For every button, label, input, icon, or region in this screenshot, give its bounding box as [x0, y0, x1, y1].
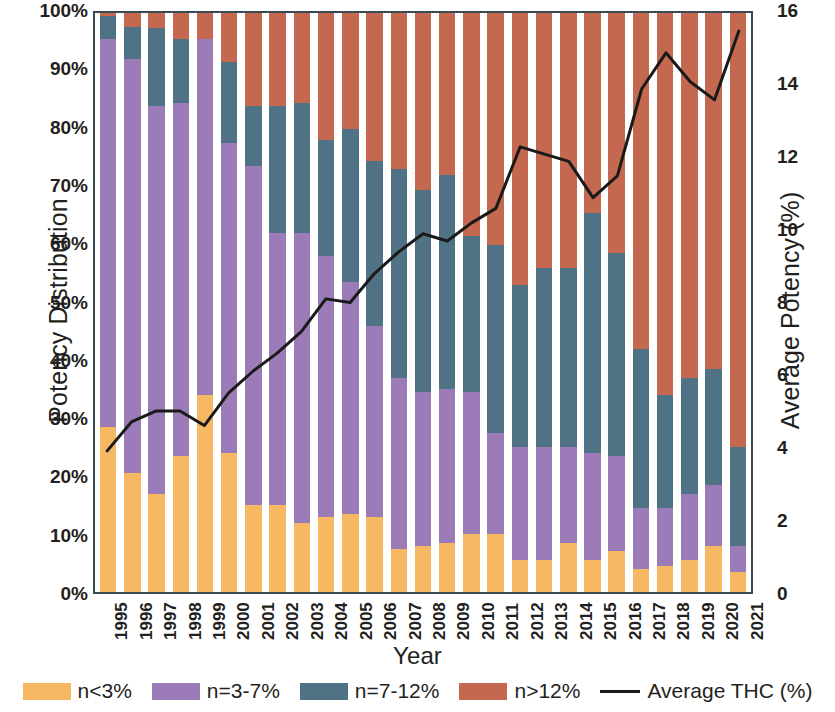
stacked-bar[interactable] [512, 13, 528, 592]
bar-column[interactable] [653, 13, 677, 592]
x-tick-label: 2014 [577, 602, 597, 640]
bar-column[interactable] [387, 13, 411, 592]
bar-segment [487, 245, 503, 433]
stacked-bar[interactable] [608, 13, 624, 592]
bar-segment [681, 494, 697, 561]
stacked-bar[interactable] [366, 13, 382, 592]
legend-label: n=3-7% [207, 679, 280, 703]
bar-column[interactable] [314, 13, 338, 592]
bar-segment [584, 453, 600, 560]
stacked-bar[interactable] [633, 13, 649, 592]
stacked-bar[interactable] [100, 13, 116, 592]
stacked-bar[interactable] [391, 13, 407, 592]
bar-segment [487, 13, 503, 245]
stacked-bar[interactable] [221, 13, 237, 592]
bar-segment [512, 447, 528, 560]
bar-column[interactable] [120, 13, 144, 592]
stacked-bar[interactable] [342, 13, 358, 592]
bar-column[interactable] [144, 13, 168, 592]
bar-column[interactable] [532, 13, 556, 592]
bar-column[interactable] [241, 13, 265, 592]
stacked-bar[interactable] [294, 13, 310, 592]
bar-segment [512, 13, 528, 285]
bar-segment [245, 505, 261, 592]
bar-segment [318, 256, 334, 517]
stacked-bar[interactable] [269, 13, 285, 592]
bar-column[interactable] [411, 13, 435, 592]
bar-column[interactable] [701, 13, 725, 592]
bar-segment [657, 395, 673, 508]
y-tick-label-left: 50% [50, 293, 88, 312]
y-tick-label-right: 16 [777, 1, 798, 20]
stacked-bar[interactable] [148, 13, 164, 592]
bar-column[interactable] [362, 13, 386, 592]
legend-item[interactable]: n=3-7% [152, 679, 280, 703]
legend-item[interactable]: Average THC (%) [600, 679, 812, 703]
stacked-bar[interactable] [705, 13, 721, 592]
bar-segment [269, 13, 285, 106]
bar-column[interactable] [677, 13, 701, 592]
stacked-bar[interactable] [463, 13, 479, 592]
bar-column[interactable] [605, 13, 629, 592]
y-tick-label-left: 10% [50, 526, 88, 545]
bar-column[interactable] [508, 13, 532, 592]
bar-column[interactable] [266, 13, 290, 592]
bar-segment [366, 13, 382, 161]
y-tick-label-right: 0 [777, 584, 788, 603]
bar-segment [608, 13, 624, 253]
bar-segment [536, 447, 552, 560]
bar-segment [730, 572, 746, 592]
bar-column[interactable] [290, 13, 314, 592]
stacked-bar[interactable] [439, 13, 455, 592]
stacked-bar[interactable] [173, 13, 189, 592]
bar-column[interactable] [629, 13, 653, 592]
stacked-bar[interactable] [487, 13, 503, 592]
stacked-bar[interactable] [197, 13, 213, 592]
legend-item[interactable]: n>12% [459, 679, 580, 703]
bar-segment [681, 560, 697, 592]
bar-column[interactable] [217, 13, 241, 592]
bar-segment [608, 456, 624, 552]
bar-column[interactable] [435, 13, 459, 592]
bar-column[interactable] [459, 13, 483, 592]
stacked-bar[interactable] [560, 13, 576, 592]
bar-column[interactable] [580, 13, 604, 592]
stacked-bar[interactable] [415, 13, 431, 592]
stacked-bar[interactable] [584, 13, 600, 592]
stacked-bar[interactable] [536, 13, 552, 592]
chart-figure: Potency Distribution Average Potency (%)… [0, 0, 835, 712]
stacked-bar[interactable] [657, 13, 673, 592]
legend-item[interactable]: n<3% [23, 679, 132, 703]
bar-segment [342, 129, 358, 282]
legend-swatch-salmon-icon [459, 683, 507, 700]
x-tick-label: 2006 [381, 602, 401, 640]
bar-segment [148, 494, 164, 592]
bar-segment [148, 28, 164, 106]
bar-column[interactable] [338, 13, 362, 592]
bar-segment [415, 13, 431, 190]
bar-segment [487, 534, 503, 592]
legend-label: n=7-12% [355, 679, 440, 703]
stacked-bar[interactable] [730, 13, 746, 592]
bar-column[interactable] [96, 13, 120, 592]
stacked-bar[interactable] [245, 13, 261, 592]
bar-segment [269, 233, 285, 505]
y-tick-label-right: 4 [777, 438, 788, 457]
bar-segment [221, 62, 237, 143]
bar-segment [633, 569, 649, 592]
stacked-bar[interactable] [681, 13, 697, 592]
bar-column[interactable] [484, 13, 508, 592]
bar-column[interactable] [169, 13, 193, 592]
y-tick-label-right: 6 [777, 365, 788, 384]
legend-item[interactable]: n=7-12% [300, 679, 440, 703]
bar-segment [608, 253, 624, 456]
bar-segment [269, 505, 285, 592]
x-tick-label: 2021 [748, 602, 768, 640]
bar-column[interactable] [726, 13, 750, 592]
bar-segment [100, 16, 116, 39]
stacked-bar[interactable] [318, 13, 334, 592]
bar-column[interactable] [556, 13, 580, 592]
y-tick-label-left: 40% [50, 351, 88, 370]
stacked-bar[interactable] [124, 13, 140, 592]
bar-column[interactable] [193, 13, 217, 592]
